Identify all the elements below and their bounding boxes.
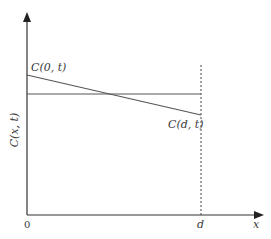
y-axis-arrow-icon bbox=[23, 12, 31, 22]
y-axis-label: C(x, t) bbox=[8, 113, 21, 148]
origin-label: 0 bbox=[24, 219, 30, 230]
curve-start-label: C(0, t) bbox=[31, 61, 66, 74]
concentration-diagram: C(0, t) C(d, t) 0 d x C(x, t) bbox=[0, 0, 271, 239]
curve-end-label: C(d, t) bbox=[168, 118, 203, 131]
d-tick-label: d bbox=[197, 218, 204, 231]
x-axis-label: x bbox=[253, 218, 260, 231]
sloped-profile-line bbox=[27, 75, 201, 115]
